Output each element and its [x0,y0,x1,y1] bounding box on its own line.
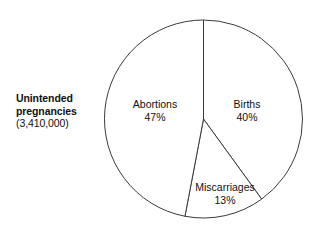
pie-label-miscarriages: Miscarriages 13% [182,181,268,207]
pie-label-miscarriages-value: 13% [182,194,268,207]
pie-label-abortions-value: 47% [116,111,194,124]
pie-label-births-name: Births [214,98,280,111]
pie-label-abortions-name: Abortions [116,98,194,111]
pie-label-miscarriages-name: Miscarriages [182,181,268,194]
pie-label-abortions: Abortions 47% [116,98,194,124]
pie-label-births-value: 40% [214,111,280,124]
pie-label-births: Births 40% [214,98,280,124]
pie-chart-figure: Unintended pregnancies (3,410,000) Abort… [0,0,317,231]
